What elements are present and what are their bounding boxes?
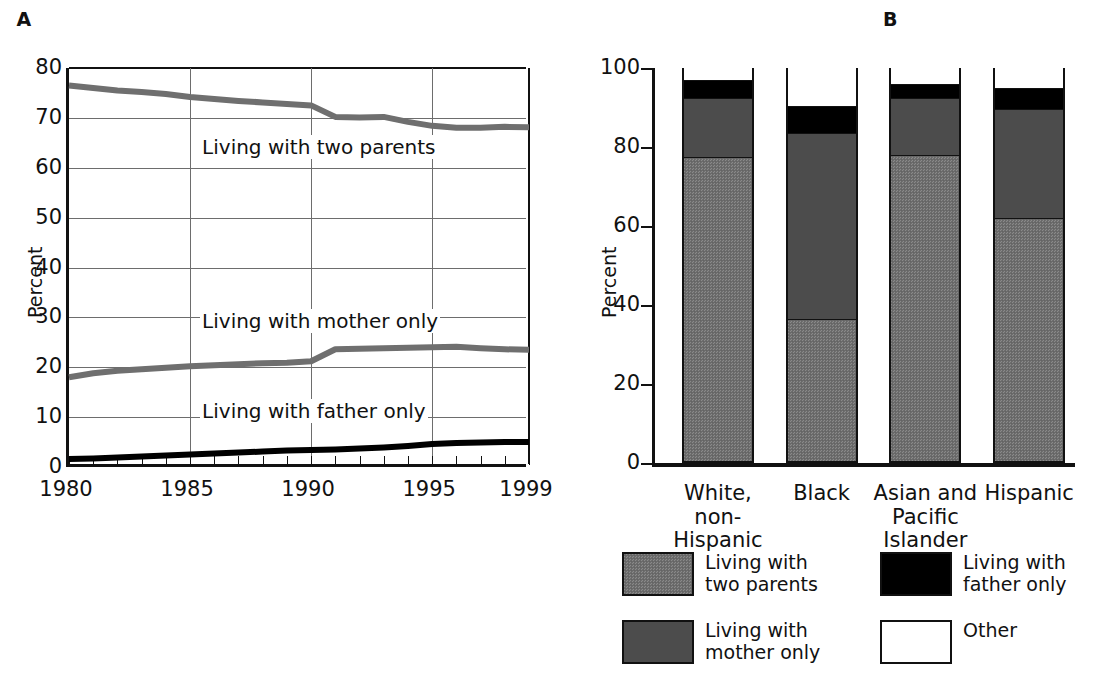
y-tick-label: 20 [578,373,640,394]
stacked-bar [993,68,1065,463]
stacked-bar [682,68,754,463]
legend-swatch-other [880,620,952,664]
legend-label: Other [963,620,1017,642]
legend-label: Living with father only [963,552,1067,595]
legend-swatch-two-parents [622,552,694,596]
segment-other [684,66,752,80]
segment-other [891,66,959,84]
legend-swatch-mother-only [622,620,694,664]
y-tick-label: 80 [578,136,640,157]
y-tick-label: 30 [0,306,62,327]
panel-a-line-chart: A Percent 01020304050607080 198019851990… [0,0,560,682]
chart-legend: Living with two parentsLiving with fathe… [622,552,1092,678]
line-series [69,347,529,377]
y-tick-label: 10 [0,406,62,427]
y-tick-label: 0 [0,456,62,477]
y-tick-label: 40 [0,257,62,278]
segment-mother-only [995,109,1063,218]
line-series [69,85,529,127]
axis-minor-tick [529,456,530,465]
segment-father-only [891,84,959,98]
panel-b-x-axis [652,463,1075,467]
panel-b-title: B [612,8,1117,30]
segment-other [788,66,856,106]
y-tick-label: 100 [578,57,640,78]
segment-other [995,66,1063,88]
stacked-bar [786,68,858,463]
y-tick-label: 60 [578,215,640,236]
y-axis-tick [641,68,652,70]
panel-b-plot-area [652,68,1067,467]
series-annotation: Living with mother only [200,309,440,333]
segment-father-only [995,88,1063,110]
y-tick-label: 20 [0,356,62,377]
y-axis-tick [641,463,652,465]
x-tick-label: 1995 [379,478,479,502]
legend-label: Living with mother only [705,620,820,663]
segment-father-only [684,80,752,98]
segment-two-parents [891,155,959,461]
y-tick-label: 40 [578,294,640,315]
y-axis-tick [641,384,652,386]
y-tick-label: 70 [0,107,62,128]
y-axis-tick [641,226,652,228]
legend-item: Living with father only [880,552,1067,596]
legend-item: Living with mother only [622,620,820,664]
panel-b-y-axis [652,68,655,467]
x-tick-label: 1985 [137,478,237,502]
series-annotation: Living with father only [200,399,428,423]
x-tick-label: 1990 [258,478,358,502]
legend-swatch-father-only [880,552,952,596]
stacked-bar [889,68,961,463]
y-axis-tick [641,305,652,307]
category-label: Hispanic [965,482,1093,506]
series-annotation: Living with two parents [200,135,437,159]
line-series [69,442,529,459]
y-axis-tick [641,147,652,149]
segment-two-parents [684,157,752,461]
segment-mother-only [684,98,752,157]
legend-item: Living with two parents [622,552,818,596]
y-tick-label: 80 [0,57,62,78]
y-tick-label: 50 [0,207,62,228]
y-tick-label: 60 [0,157,62,178]
legend-item: Other [880,620,1017,664]
y-tick-label: 0 [578,452,640,473]
legend-label: Living with two parents [705,552,818,595]
segment-two-parents [995,218,1063,461]
segment-mother-only [788,133,856,319]
x-tick-label: 1980 [16,478,116,502]
segment-mother-only [891,98,959,155]
panel-a-title: A [0,8,304,30]
segment-two-parents [788,319,856,461]
segment-father-only [788,106,856,134]
